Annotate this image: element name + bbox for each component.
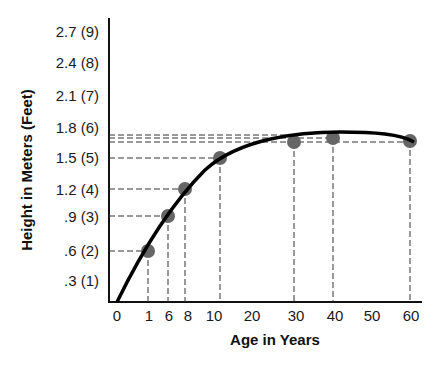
svg-text:40: 40 <box>327 307 344 324</box>
y-tick-labels: 2.7 (9) 2.4 (8) 2.1 (7) 1.8 (6) 1.5 (5) … <box>56 23 99 289</box>
svg-text:.6 (2): .6 (2) <box>64 242 99 259</box>
x-tick-labels: 0 1 6 8 10 20 30 40 50 60 <box>113 307 420 324</box>
svg-text:8: 8 <box>184 307 192 324</box>
svg-text:.3 (1): .3 (1) <box>64 272 99 289</box>
svg-text:60: 60 <box>403 307 420 324</box>
svg-text:10: 10 <box>206 307 223 324</box>
svg-text:2.1 (7): 2.1 (7) <box>56 87 99 104</box>
svg-text:1.8 (6): 1.8 (6) <box>56 119 99 136</box>
svg-text:1.5 (5): 1.5 (5) <box>56 149 99 166</box>
svg-text:6: 6 <box>165 307 173 324</box>
svg-text:2.7 (9): 2.7 (9) <box>56 23 99 40</box>
x-axis-label: Age in Years <box>230 331 320 348</box>
y-axis-label: Height in Meters (Feet) <box>18 89 35 251</box>
svg-text:1: 1 <box>145 307 153 324</box>
svg-text:0: 0 <box>113 307 121 324</box>
svg-text:20: 20 <box>244 307 261 324</box>
svg-text:.9 (3): .9 (3) <box>64 208 99 225</box>
svg-text:50: 50 <box>364 307 381 324</box>
svg-text:30: 30 <box>288 307 305 324</box>
vertical-guides <box>148 138 410 302</box>
svg-text:2.4 (8): 2.4 (8) <box>56 54 99 71</box>
height-age-chart: 2.7 (9) 2.4 (8) 2.1 (7) 1.8 (6) 1.5 (5) … <box>0 0 436 366</box>
svg-text:1.2 (4): 1.2 (4) <box>56 181 99 198</box>
